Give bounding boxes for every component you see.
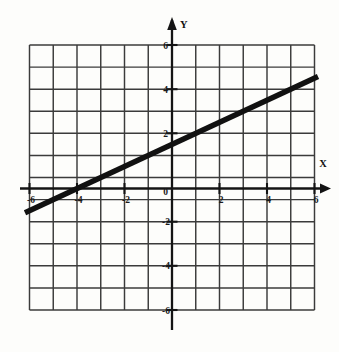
x-tick-label-4: 4 xyxy=(266,195,271,205)
y-tick-label-neg2: -2 xyxy=(162,217,170,227)
y-axis-letter-label: Y xyxy=(180,19,188,30)
y-tick-label-neg6: -6 xyxy=(162,306,170,316)
x-tick-label-neg6: -6 xyxy=(27,195,35,205)
coordinate-graph: 6 4 2 0 -2 -4 -6 -6 -4 -2 2 4 6 Y X xyxy=(0,0,339,352)
y-tick-label-neg4: -4 xyxy=(162,261,170,271)
figure-root: 6 4 2 0 -2 -4 -6 -6 -4 -2 2 4 6 Y X xyxy=(0,0,339,352)
x-axis-letter-label: X xyxy=(319,158,327,169)
y-tick-label-2: 2 xyxy=(163,129,168,139)
x-tick-label-2: 2 xyxy=(219,195,224,205)
y-tick-label-4: 4 xyxy=(163,85,168,95)
x-tick-label-6: 6 xyxy=(314,195,319,205)
y-tick-label-0: 0 xyxy=(163,187,168,197)
y-tick-label-6: 6 xyxy=(163,41,168,51)
paper-background xyxy=(0,0,339,352)
x-tick-label-neg4: -4 xyxy=(75,195,83,205)
x-tick-label-neg2: -2 xyxy=(122,195,130,205)
